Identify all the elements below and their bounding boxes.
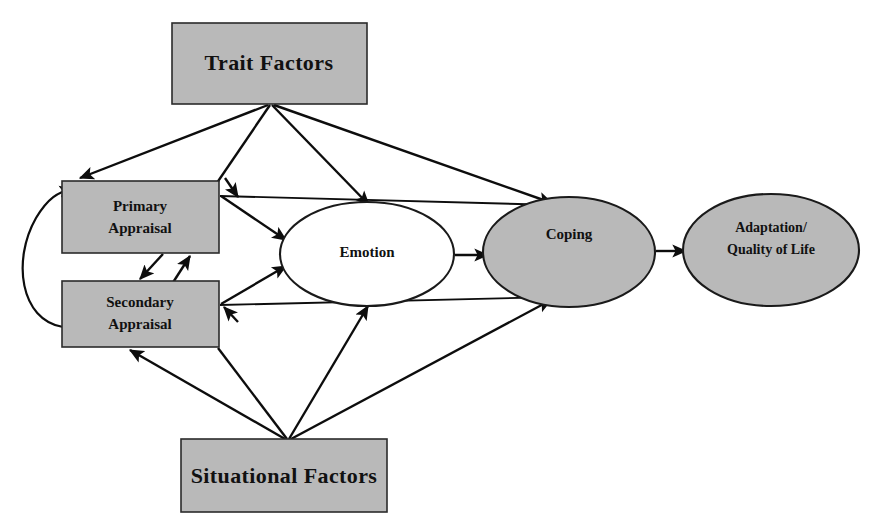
emotion-label: Emotion	[339, 244, 395, 260]
edge-secondary-to-primary	[172, 256, 190, 284]
process-model-diagram: Trait Factors Primary Appraisal Secondar…	[0, 0, 881, 529]
edge-secondary-to-emotion	[221, 266, 286, 304]
node-trait-factors[interactable]: Trait Factors	[172, 23, 367, 104]
node-situational-factors[interactable]: Situational Factors	[181, 439, 387, 512]
adaptation-label-line2: Quality of Life	[727, 242, 815, 257]
edge-primary-to-secondary	[140, 254, 163, 279]
edge-trait-to-emotion	[272, 105, 369, 205]
edge-situational-to-secondary-right	[218, 348, 287, 439]
trait-factors-label: Trait Factors	[205, 50, 334, 75]
coping-ellipse[interactable]	[483, 197, 655, 307]
edge-trait-to-coping	[274, 105, 552, 203]
edge-situational-to-secondary-right-head	[224, 307, 238, 322]
coping-label: Coping	[546, 226, 593, 242]
secondary-appraisal-label-line2: Appraisal	[108, 316, 171, 332]
edge-situational-to-secondary	[130, 350, 285, 439]
primary-appraisal-box[interactable]	[62, 181, 219, 253]
secondary-appraisal-label-line1: Secondary	[106, 294, 174, 310]
node-secondary-appraisal[interactable]: Secondary Appraisal	[62, 281, 219, 347]
edge-primary-to-emotion	[221, 196, 286, 240]
adaptation-label-line1: Adaptation/	[735, 220, 808, 235]
primary-appraisal-label-line2: Appraisal	[108, 220, 171, 236]
edge-trait-to-primary	[80, 105, 268, 178]
diagram-canvas: Trait Factors Primary Appraisal Secondar…	[0, 0, 881, 529]
edge-trait-to-secondary-head	[225, 178, 238, 197]
node-primary-appraisal[interactable]: Primary Appraisal	[62, 181, 219, 253]
primary-appraisal-label-line1: Primary	[113, 198, 168, 214]
node-adaptation-quality-of-life[interactable]: Adaptation/ Quality of Life	[683, 194, 859, 306]
situational-factors-label: Situational Factors	[191, 463, 378, 488]
secondary-appraisal-box[interactable]	[62, 281, 219, 347]
node-emotion[interactable]: Emotion	[280, 202, 454, 306]
node-coping[interactable]: Coping	[483, 197, 655, 307]
